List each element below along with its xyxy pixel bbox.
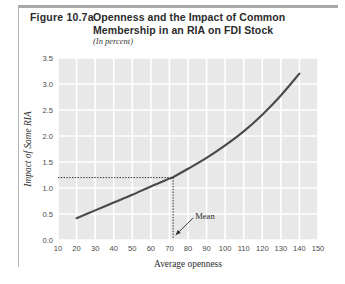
chart-svg: 0.00.51.01.52.02.53.03.5 102030405060708… xyxy=(0,0,345,284)
x-tick-label: 120 xyxy=(256,244,269,253)
y-tick-label: 2.5 xyxy=(42,106,53,115)
mean-annotation-label: Mean xyxy=(195,211,215,221)
y-tick-label: 2.0 xyxy=(42,132,53,141)
y-tick-label: 1.5 xyxy=(42,158,53,167)
x-axis-tick-labels: 102030405060708090100110120130140150 xyxy=(54,244,325,253)
y-axis-title: Impact of Same RIA xyxy=(23,111,33,188)
x-tick-label: 40 xyxy=(109,244,117,253)
x-tick-label: 100 xyxy=(219,244,232,253)
y-tick-label: 1.0 xyxy=(42,184,53,193)
x-tick-label: 10 xyxy=(54,244,62,253)
x-tick-label: 30 xyxy=(91,244,99,253)
x-tick-label: 90 xyxy=(202,244,210,253)
y-tick-label: 3.0 xyxy=(42,80,53,89)
y-tick-label: 3.5 xyxy=(42,54,53,63)
y-axis-tick-labels: 0.00.51.01.52.02.53.03.5 xyxy=(42,54,53,245)
y-tick-label: 0.0 xyxy=(42,236,53,245)
x-tick-label: 50 xyxy=(128,244,136,253)
x-tick-label: 20 xyxy=(72,244,80,253)
x-tick-label: 60 xyxy=(147,244,155,253)
x-tick-label: 110 xyxy=(238,244,250,253)
x-tick-label: 70 xyxy=(165,244,173,253)
figure-page: Figure 10.7a Openness and the Impact of … xyxy=(0,0,345,284)
x-axis-title: Average openness xyxy=(154,259,222,269)
x-tick-label: 150 xyxy=(312,244,325,253)
chart-container: 0.00.51.01.52.02.53.03.5 102030405060708… xyxy=(0,0,345,284)
x-tick-label: 140 xyxy=(293,244,306,253)
x-tick-label: 80 xyxy=(184,244,192,253)
x-tick-label: 130 xyxy=(275,244,288,253)
y-tick-label: 0.5 xyxy=(42,210,53,219)
